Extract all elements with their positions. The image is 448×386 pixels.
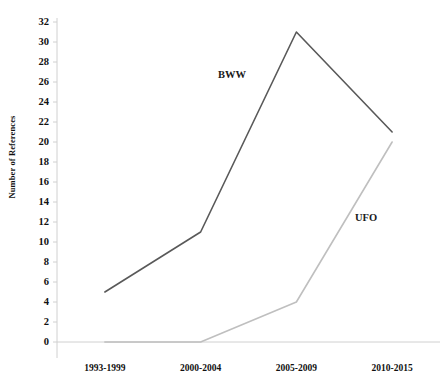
- y-tick-label: 20: [19, 137, 49, 148]
- y-tick-marks: [53, 22, 57, 342]
- series-label-ufo: UFO: [355, 213, 377, 224]
- y-tick-label: 14: [19, 197, 49, 208]
- y-tick-label: 24: [19, 97, 49, 108]
- series-lines: [105, 32, 392, 342]
- series-line-ufo: [105, 142, 392, 342]
- axis-lines: [57, 18, 440, 358]
- y-tick-label: 22: [19, 117, 49, 128]
- x-tick-label: 2000-2004: [151, 364, 251, 374]
- y-tick-label: 4: [19, 297, 49, 308]
- line-chart: Number of References 0246810121416182022…: [0, 0, 448, 386]
- series-label-bww: BWW: [218, 70, 246, 81]
- y-tick-label: 16: [19, 177, 49, 188]
- x-tick-label: 2010-2015: [342, 364, 442, 374]
- y-tick-label: 30: [19, 37, 49, 48]
- y-tick-label: 28: [19, 57, 49, 68]
- y-tick-label: 32: [19, 17, 49, 28]
- x-tick-label: 1993-1999: [55, 364, 155, 374]
- y-tick-label: 0: [19, 337, 49, 348]
- y-tick-label: 26: [19, 77, 49, 88]
- y-tick-label: 2: [19, 317, 49, 328]
- y-tick-label: 8: [19, 257, 49, 268]
- y-tick-label: 12: [19, 217, 49, 228]
- x-tick-label: 2005-2009: [246, 364, 346, 374]
- series-line-bww: [105, 32, 392, 292]
- plot-area: [0, 0, 448, 386]
- y-tick-label: 6: [19, 277, 49, 288]
- y-tick-label: 18: [19, 157, 49, 168]
- y-tick-label: 10: [19, 237, 49, 248]
